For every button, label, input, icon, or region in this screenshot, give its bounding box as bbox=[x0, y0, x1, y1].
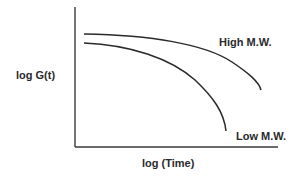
relaxation-modulus-chart: log G(t) log (Time) High M.W. Low M.W. bbox=[0, 0, 304, 178]
low-mw-curve bbox=[84, 43, 226, 131]
low-mw-label: Low M.W. bbox=[236, 130, 286, 142]
y-axis-label: log G(t) bbox=[16, 69, 55, 81]
high-mw-label: High M.W. bbox=[219, 36, 272, 48]
x-axis-label: log (Time) bbox=[142, 157, 195, 169]
